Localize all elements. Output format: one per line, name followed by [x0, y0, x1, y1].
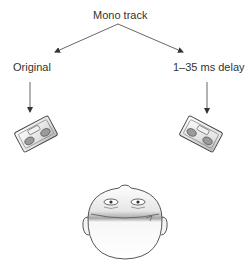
right-speaker-icon [179, 115, 223, 152]
left-speaker-icon [14, 115, 58, 152]
delay-label: 1–35 ms delay [173, 61, 245, 73]
diagram-canvas [0, 0, 252, 264]
split-arrow-right [118, 24, 183, 52]
mono-track-label: Mono track [93, 9, 147, 21]
listener-head-icon [83, 185, 167, 259]
split-arrow-left [55, 24, 118, 52]
original-label: Original [13, 61, 51, 73]
